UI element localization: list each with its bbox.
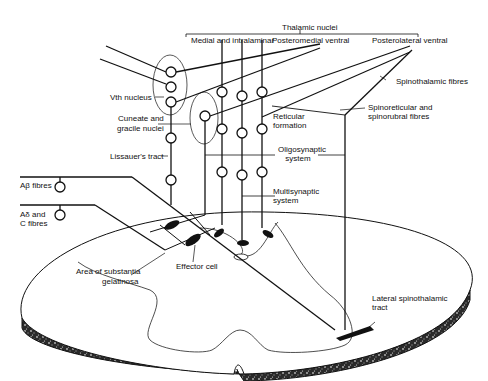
diagram-canvas: [0, 0, 488, 381]
label-substantia-2: gelatinosa: [102, 277, 138, 287]
neuron: [257, 87, 267, 97]
label-posterolateral-ventral: Posterolateral ventral: [372, 36, 448, 46]
label-medial-intralaminar: Medial and intralaminar: [191, 36, 274, 46]
neuron: [166, 133, 176, 143]
label-a-delta-2: C fibres: [20, 219, 48, 229]
label-reticular-2: formation: [273, 121, 306, 131]
neuron: [200, 111, 210, 121]
neuron: [257, 167, 267, 177]
label-lateral-spinothalamic-2: tract: [372, 303, 388, 313]
label-cuneate-2: gracile nuclei: [117, 124, 164, 134]
cell-body: [237, 240, 249, 246]
neuron: [217, 124, 227, 134]
neuron: [55, 210, 65, 220]
neuron: [237, 91, 247, 101]
neuron: [217, 167, 227, 177]
label-thalamic-nuclei: Thalamic nuclei: [282, 23, 338, 33]
label-cuneate-1: Cuneate and: [118, 114, 164, 124]
neuron: [237, 170, 247, 180]
neuron: [166, 97, 176, 107]
neuron: [166, 82, 176, 92]
label-a-beta-fibres: Aβ fibres: [20, 181, 52, 191]
neuron: [217, 87, 227, 97]
label-lissauers-tract: Lissauer's tract: [110, 152, 164, 162]
label-spinoreticular-2: spinorubral fibres: [368, 112, 429, 122]
label-posteromedial-ventral: Posteromedial ventral: [272, 36, 349, 46]
neuron: [237, 128, 247, 138]
neuron: [166, 175, 176, 185]
label-oligosynaptic-2: system: [278, 154, 318, 164]
label-spinothalamic-fibres: Spinothalamic fibres: [396, 77, 468, 87]
neuron: [257, 124, 267, 134]
neuron: [166, 67, 176, 77]
label-effector-cell: Effector cell: [176, 262, 218, 272]
neuron: [55, 182, 65, 192]
label-multisynaptic-2: system: [273, 196, 298, 206]
label-vth-nucleus: Vth nucleus: [110, 93, 152, 103]
label-substantia-1: Area of substantia: [76, 267, 140, 277]
